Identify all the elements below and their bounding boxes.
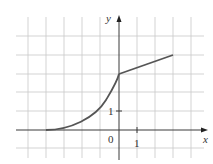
x-axis-arrow-icon	[201, 128, 208, 133]
x-tick-label-1: 1	[134, 137, 140, 149]
line-segment	[119, 55, 173, 74]
origin-label: 0	[108, 133, 114, 145]
curve-segment	[46, 74, 119, 130]
x-axis-label: x	[202, 133, 208, 145]
graph: y x 0 1 1	[0, 0, 213, 164]
y-axis-label: y	[105, 12, 111, 24]
y-axis-arrow-icon	[117, 15, 122, 22]
y-tick-label-1: 1	[108, 105, 114, 117]
